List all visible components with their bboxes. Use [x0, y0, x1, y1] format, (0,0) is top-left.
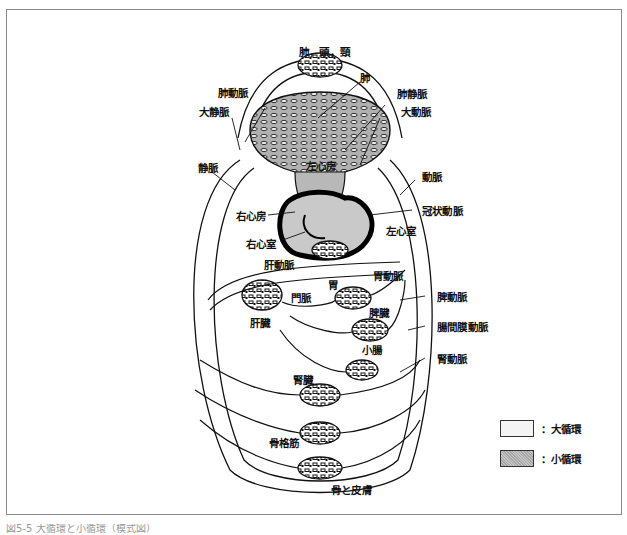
label-small-intestine: 小腸	[362, 345, 382, 356]
label-pulmonary-artery: 肺動脈	[218, 88, 249, 99]
figure-caption: 図5-5 大循環と小循環（模式図）	[6, 524, 156, 535]
label-aorta: 大動脈	[401, 107, 432, 118]
label-kidney: 腎臓	[293, 375, 313, 386]
legend-label-pulmonary: ：小循環	[541, 451, 581, 466]
label-liver: 肝臓	[250, 318, 270, 329]
label-pulmonary-vein: 肺静脈	[397, 89, 428, 100]
label-left-ventricle: 左心室	[386, 226, 417, 237]
intestine-capillary	[352, 319, 388, 341]
label-vena-cava: 大静脈	[199, 107, 230, 118]
kidney-capillary	[300, 384, 340, 406]
muscle-capillary	[300, 422, 340, 444]
label-bone-and-skin: 骨と皮膚	[331, 485, 372, 496]
label-lung: 肺	[360, 73, 370, 84]
label-lung-head-neck: 肺，頭，頸	[299, 47, 350, 58]
kidney-upper-capillary	[346, 360, 378, 380]
stomach-capillary	[335, 287, 371, 309]
label-renal-artery: 腎動脈	[437, 354, 468, 365]
label-skeletal-muscle: 骨格筋	[269, 438, 300, 449]
label-right-atrium: 右心房	[236, 211, 267, 222]
label-splenic-artery: 脾動脈	[437, 292, 468, 303]
legend-swatch-pulmonary	[500, 450, 534, 467]
label-gastric-artery: 胃動脈	[373, 271, 404, 282]
label-mesenteric-artery: 腸間膜動脈	[437, 322, 488, 333]
label-right-ventricle: 右心室	[246, 239, 277, 250]
label-artery: 動脈	[422, 172, 442, 183]
label-stomach: 胃	[328, 280, 338, 291]
legend: ：大循環 ：小循環	[500, 420, 581, 480]
label-spleen: 脾臓	[369, 308, 389, 319]
label-vein: 静脈	[198, 163, 218, 174]
label-left-atrium: 左心房	[306, 161, 337, 172]
coronary-capillary	[312, 241, 348, 259]
legend-swatch-systemic	[500, 420, 534, 437]
legend-item-systemic: ：大循環	[500, 420, 581, 437]
liver-capillary	[242, 280, 282, 310]
legend-label-systemic: ：大循環	[541, 421, 581, 436]
label-hepatic-artery: 肝動脈	[264, 260, 295, 271]
skin-capillary	[298, 457, 342, 479]
label-coronary-artery: 冠状動脈	[422, 206, 463, 217]
label-portal-vein: 門脈	[291, 293, 311, 304]
legend-item-pulmonary: ：小循環	[500, 450, 581, 467]
